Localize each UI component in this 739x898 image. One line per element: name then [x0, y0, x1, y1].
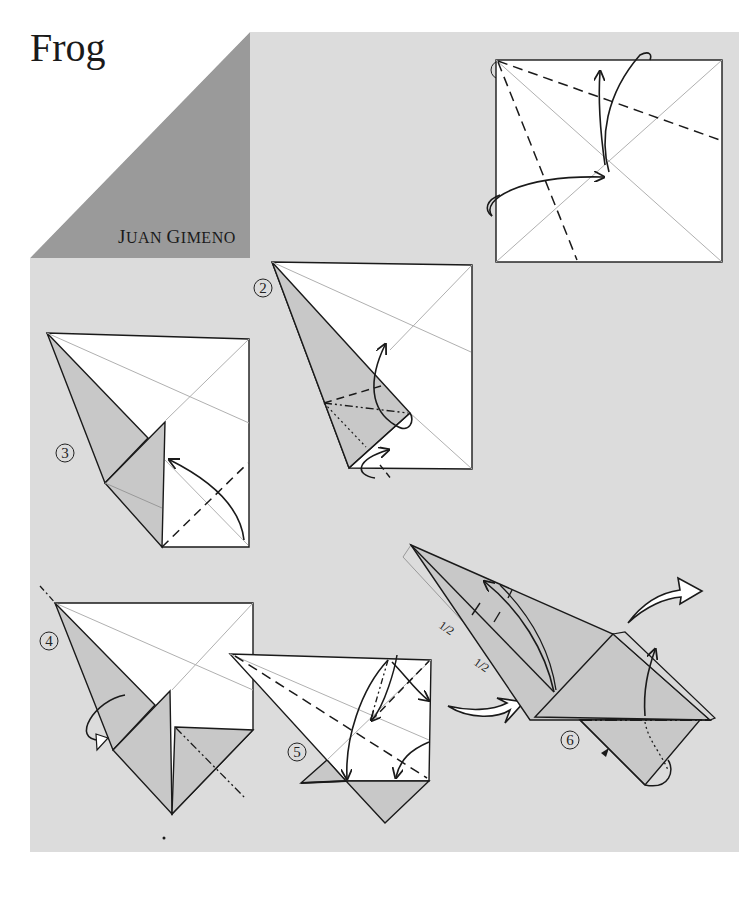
svg-text:5: 5: [293, 744, 301, 760]
step-4: 4: [40, 586, 253, 840]
hollow-arrow-right: [448, 698, 524, 723]
step-2: 2: [254, 262, 472, 480]
origami-diagram: 1 2 3: [0, 0, 739, 898]
svg-text:2: 2: [259, 280, 267, 296]
step-5: 5: [230, 654, 431, 823]
step-6: 6 1/2 1/2: [403, 545, 715, 786]
svg-text:3: 3: [61, 445, 69, 461]
hollow-arrow-up-right: [628, 578, 702, 623]
svg-text:1/2: 1/2: [436, 618, 457, 638]
svg-text:4: 4: [45, 633, 53, 649]
pivot-marker: [601, 748, 609, 757]
step-3: 3: [47, 333, 249, 547]
svg-text:6: 6: [566, 732, 574, 748]
step-1: 1: [487, 53, 722, 262]
